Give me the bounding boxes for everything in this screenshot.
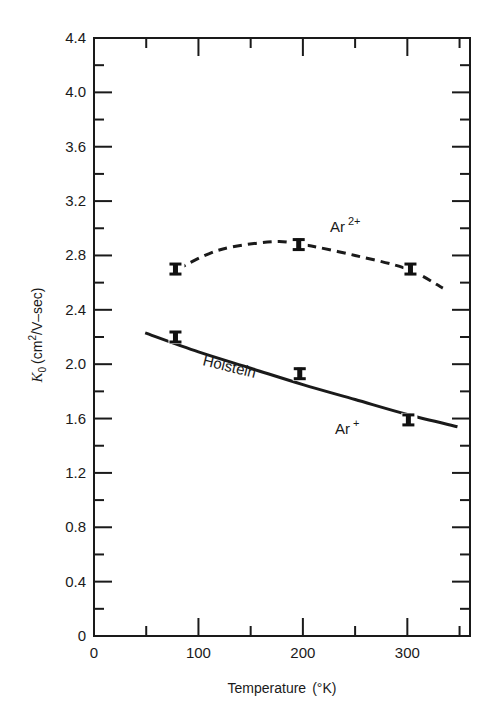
y-tick-label: 1.6 [65,410,86,427]
plot-frame [94,38,470,636]
data-points [168,238,419,427]
x-tick-label: 0 [90,644,98,661]
axis-ticks [94,38,470,636]
y-tick-label: 3.2 [65,192,86,209]
tick-labels: 00.40.81.21.62.02.42.83.23.64.04.4010020… [65,29,420,661]
y-tick-label: 2.4 [65,301,86,318]
x-tick-label: 300 [395,644,420,661]
error-bar-point [292,238,308,252]
y-tick-label: 2.8 [65,246,86,263]
ar2-dashed-curve [178,242,443,288]
y-tick-label: 0.4 [65,573,86,590]
y-tick-label: 3.6 [65,138,86,155]
y-tick-label: 4.4 [65,29,86,46]
x-axis-title: Temperature(°K) [228,680,337,696]
error-bar-point [403,262,419,276]
error-bar-point [401,413,417,427]
mobility-temperature-chart: 00.40.81.21.62.02.42.83.23.64.04.4010020… [0,0,493,707]
y-tick-label: 0 [78,627,86,644]
y-tick-label: 1.2 [65,464,86,481]
y-tick-label: 2.0 [65,355,86,372]
y-tick-label: 0.8 [65,518,86,535]
error-bar-point [168,262,184,276]
error-bar-point [168,330,184,344]
holstein-label: Holstein [201,351,258,381]
ar2-label: Ar2+ [330,215,361,235]
y-tick-label: 4.0 [65,83,86,100]
y-axis-title: K0(cm2/V–sec) [27,288,48,384]
error-bar-point [293,367,309,381]
x-tick-label: 100 [186,644,211,661]
ar1-label: Ar+ [335,417,359,437]
x-tick-label: 200 [290,644,315,661]
